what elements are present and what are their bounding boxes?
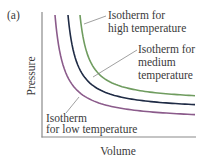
label-medium-line-1: Isotherm for [138,43,195,55]
isotherm-diagram: (a) Pressure Volume Isotherm for high te… [0,0,209,163]
x-axis-label: Volume [100,145,136,157]
y-axis-label: Pressure [25,57,37,96]
label-low-line-2: for low temperature [46,123,137,136]
label-medium-isotherm: Isotherm for medium temperature [138,43,195,82]
label-high-line-1: Isotherm for [108,9,165,21]
leader-line-low [66,97,79,113]
label-low-isotherm: Isotherm for low temperature [46,112,137,136]
label-high-line-2: high temperature [108,22,186,35]
label-medium-line-3: temperature [138,69,193,82]
label-medium-line-2: medium [138,56,176,68]
panel-label: (a) [7,9,20,22]
label-high-isotherm: Isotherm for high temperature [108,9,186,35]
leader-line-high [84,16,106,24]
leader-line-medium [93,50,137,77]
